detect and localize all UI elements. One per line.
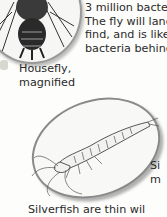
- caption-line: Si: [150, 159, 161, 173]
- body-line: 3 million bacte: [85, 1, 167, 15]
- caption-line: magnified: [19, 76, 75, 90]
- caption-line: Housefly,: [19, 62, 75, 76]
- bottom-paragraph-line: Silverfish are thin wil: [28, 203, 145, 216]
- body-paragraph: 3 million bacte The fly will lanc find, …: [85, 1, 167, 55]
- silverfish-caption: Si m: [150, 159, 161, 186]
- body-line: find, and is like: [85, 28, 167, 42]
- silverfish-illustration: [30, 96, 160, 196]
- caption-line: m: [150, 173, 161, 187]
- housefly-illustration: [0, 0, 80, 62]
- body-line: The fly will lanc: [85, 15, 167, 29]
- body-line: bacteria behinc: [85, 42, 167, 56]
- housefly-magnifier-lens: [0, 0, 82, 64]
- housefly-caption: Housefly, magnified: [19, 62, 75, 89]
- page-smudge: [0, 60, 8, 70]
